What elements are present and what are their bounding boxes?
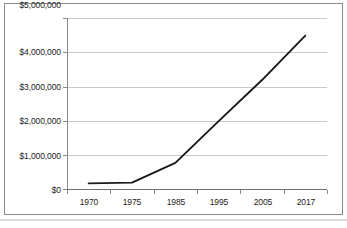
x-axis-label-1970: 1970 <box>70 197 108 207</box>
data-series-line <box>89 36 306 184</box>
x-axis-label-2005: 2005 <box>244 197 282 207</box>
x-axis-label-1985: 1985 <box>157 197 195 207</box>
y-axis-label-3000000: $3,000,000 <box>4 82 61 92</box>
y-axis-label-2000000: $2,000,000 <box>4 116 61 126</box>
y-axis-label-1000000: $1,000,000 <box>4 151 61 161</box>
y-axis-ticks <box>63 19 67 190</box>
y-axis-label-0: $0 <box>4 185 61 195</box>
x-axis-label-1975: 1975 <box>113 197 151 207</box>
y-axis-label-5000000: $5,000,000 <box>4 0 61 10</box>
gridlines <box>67 19 327 156</box>
chart-figure: $5,000,000 $4,000,000 $3,000,000 $2,000,… <box>0 0 347 228</box>
y-axis-label-4000000: $4,000,000 <box>4 47 61 57</box>
x-axis-label-1995: 1995 <box>200 197 238 207</box>
x-axis-ticks <box>68 190 328 194</box>
x-axis-label-2017: 2017 <box>287 197 325 207</box>
